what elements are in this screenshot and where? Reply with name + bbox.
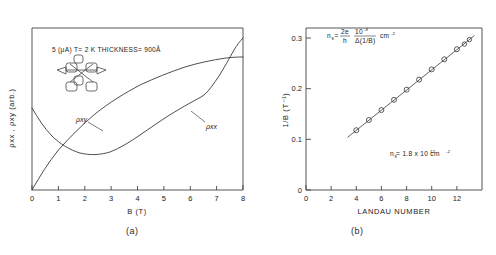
panel-a-xtick-2: 2 — [83, 194, 87, 203]
panel-b-y-axis — [306, 38, 311, 190]
panel-b-xtick-4: 8 — [405, 194, 409, 203]
curve-rho-xx — [32, 38, 243, 155]
panel-b-result-annotation: n = 1.8 x 10 cm s 12 -2 — [390, 149, 450, 160]
formula-unit-exponent: -2 — [391, 31, 395, 36]
formula-equals: = — [335, 32, 339, 39]
panel-a-x-axis-label: B (T) — [127, 207, 147, 216]
formula-denominator-2: Δ(1/B) — [355, 37, 376, 45]
formula-unit: cm — [380, 32, 390, 39]
panel-b-formula-annotation: n s = 2e h 10 -8 Δ(1/B) cm -2 — [327, 27, 395, 45]
panel-b-ytick-0: 0 — [298, 186, 302, 195]
hall-bar-sample-icon — [57, 55, 106, 91]
panel-a-xtick-0: 0 — [30, 194, 34, 203]
panel-b-ytick-3: 0.3 — [292, 34, 302, 43]
panel-a-xtick-3: 3 — [109, 194, 113, 203]
panel-a-xtick-7: 7 — [215, 194, 219, 203]
panel-a-conditions-annotation: 5 (μA) T= 2 K THICKNESS= 900Å — [52, 45, 161, 54]
curve-label-rho-xy: ρxy — [75, 116, 88, 124]
panel-a-xtick-5: 5 — [162, 194, 166, 203]
formula-numerator-1: 2e — [341, 28, 349, 35]
panel-b: 0 2 4 6 8 10 12 0 0.1 0.2 0.3 LANDAU NUM… — [281, 27, 482, 216]
panel-b-y-axis-label: 1/B (T⁻¹) — [281, 93, 290, 128]
panel-a-y-axis-label: ρxx , ρxy (arb.) — [7, 88, 16, 147]
panel-a-xtick-6: 6 — [188, 194, 192, 203]
panel-a: 0 1 2 3 4 5 6 7 8 B (T) ρxx , ρxy (arb.)… — [7, 28, 245, 216]
panel-a-xtick-8: 8 — [241, 194, 245, 203]
panel-b-frame — [306, 28, 482, 190]
figure-svg: 0 1 2 3 4 5 6 7 8 B (T) ρxx , ρxy (arb.)… — [0, 0, 496, 255]
panel-a-x-axis — [32, 185, 243, 190]
panel-a-caption: (a) — [126, 226, 139, 236]
panel-a-xtick-1: 1 — [56, 194, 60, 203]
figure-container: 0 1 2 3 4 5 6 7 8 B (T) ρxx , ρxy (arb.)… — [0, 0, 496, 255]
panel-b-ytick-1: 0.1 — [292, 135, 302, 144]
panel-a-xtick-4: 4 — [135, 194, 139, 203]
result-exponent: 12 — [430, 149, 435, 154]
panel-b-x-axis — [306, 185, 482, 190]
curve-label-rho-xx: ρxx — [205, 123, 218, 131]
panel-b-xtick-2: 4 — [354, 194, 358, 203]
panel-b-caption: (b) — [351, 226, 364, 236]
panel-b-x-axis-label: LANDAU NUMBER — [358, 207, 431, 216]
panel-b-xtick-1: 2 — [329, 194, 333, 203]
formula-numerator-2: 10 — [355, 28, 363, 35]
panel-b-xtick-5: 10 — [428, 194, 436, 203]
panel-b-xtick-6: 12 — [453, 194, 461, 203]
formula-numerator-2-exponent: -8 — [364, 27, 368, 32]
panel-b-xtick-0: 0 — [304, 194, 308, 203]
formula-ns: n — [327, 32, 331, 39]
panel-b-ytick-2: 0.2 — [292, 84, 302, 93]
formula-denominator-1: h — [343, 37, 347, 44]
panel-b-xtick-3: 6 — [379, 194, 383, 203]
panel-a-curve-labels: ρxy ρxx — [75, 111, 218, 131]
result-unit-exponent: -2 — [446, 149, 450, 154]
